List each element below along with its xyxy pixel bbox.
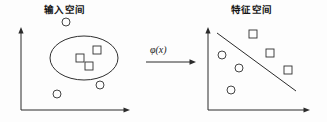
circle-marker [235, 64, 243, 72]
square-marker [266, 49, 274, 57]
feature-space-title: 特征空间 [231, 5, 273, 15]
input-space-square-markers [76, 46, 101, 70]
input-space-circle-markers [53, 18, 104, 98]
feature-map-arrowhead [190, 59, 197, 65]
left-panel-y-axis-arrowhead [18, 27, 23, 34]
input-space-title: 输入空间 [44, 5, 86, 15]
diagram-canvas [0, 0, 327, 122]
right-panel-group [205, 27, 310, 113]
left-panel-group [18, 18, 130, 113]
feature-space-circle-markers [218, 51, 243, 94]
square-marker [249, 30, 257, 38]
kernel-feature-map-diagram: 输入空间 特征空间 φ(x) [0, 0, 327, 122]
right-panel-y-axis-arrowhead [205, 27, 210, 34]
square-marker [85, 62, 93, 70]
square-marker [284, 66, 292, 74]
square-marker [93, 46, 101, 54]
circle-marker [96, 81, 104, 89]
circle-marker [218, 51, 226, 59]
linear-separating-line [217, 33, 296, 91]
feature-space-square-markers [249, 30, 292, 74]
left-panel-x-axis-arrowhead [124, 107, 131, 112]
right-panel-x-axis-arrowhead [304, 107, 311, 112]
mapping-arrow-group [146, 59, 196, 65]
circle-marker [53, 90, 61, 98]
square-marker [76, 54, 84, 62]
circle-marker [227, 86, 235, 94]
feature-map-label: φ(x) [150, 45, 167, 55]
circle-marker [62, 18, 70, 26]
